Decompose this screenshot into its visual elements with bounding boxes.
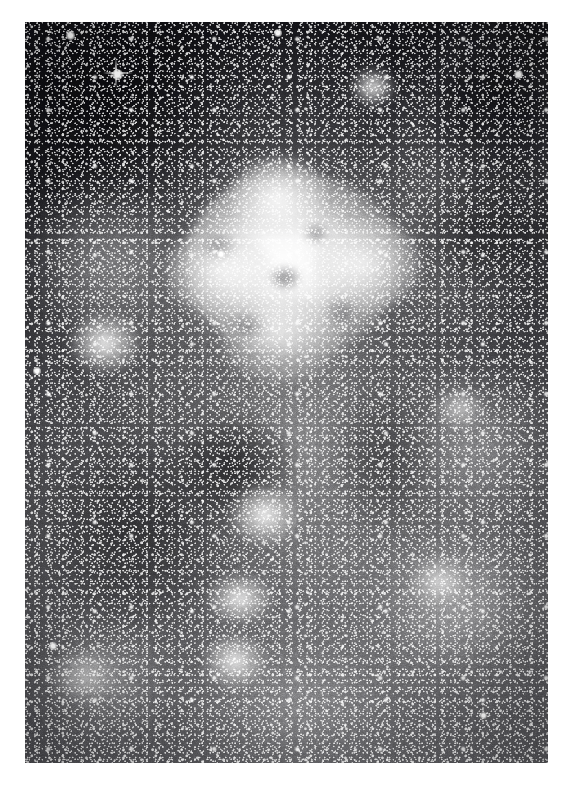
astronomy-photograph (25, 22, 548, 763)
page-root: 30 Doradus / Tarantula Nebula star-formi… (0, 0, 570, 785)
vignette-overlay (25, 22, 548, 763)
